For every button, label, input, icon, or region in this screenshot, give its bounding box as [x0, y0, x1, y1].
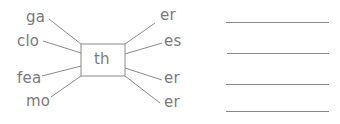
connector-ga	[49, 19, 81, 44]
fragment-right-2: es	[164, 34, 181, 49]
connector-fea	[42, 66, 81, 76]
answer-line-2[interactable]	[227, 53, 329, 54]
center-fragment: th	[94, 52, 109, 67]
connector-er-1	[125, 23, 155, 44]
connector-mo	[51, 76, 81, 97]
fragment-left-3: fea	[17, 71, 41, 86]
fragment-right-4: er	[164, 95, 180, 110]
fragment-left-1: ga	[26, 10, 45, 25]
answer-line-1[interactable]	[226, 22, 329, 23]
fragment-right-3: er	[164, 71, 180, 86]
connector-clo	[43, 41, 81, 53]
word-building-worksheet: ga clo fea mo th er es er er	[0, 0, 340, 124]
answer-line-3[interactable]	[226, 84, 329, 85]
connector-es	[125, 43, 162, 54]
fragment-left-4: mo	[26, 94, 50, 109]
answer-line-4[interactable]	[226, 111, 329, 112]
fragment-left-2: clo	[17, 34, 39, 49]
fragment-right-1: er	[160, 8, 176, 23]
connector-er-2	[125, 68, 162, 80]
connector-er-3	[125, 76, 160, 103]
